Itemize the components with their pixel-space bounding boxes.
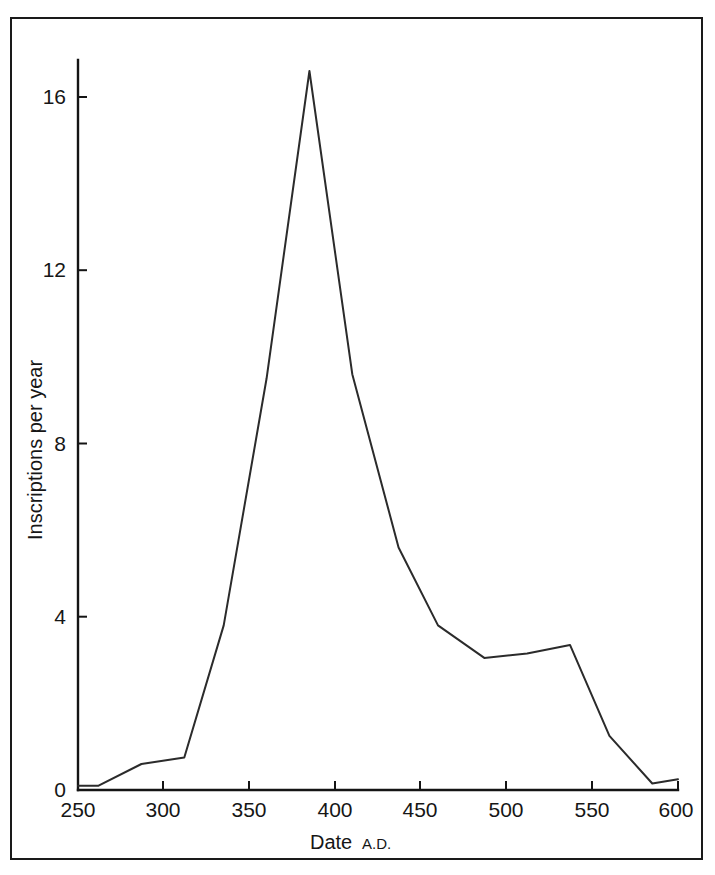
y-tick-label-12: 12 bbox=[43, 258, 66, 281]
x-tick-label-600: 600 bbox=[658, 798, 693, 821]
x-tick-marks bbox=[78, 781, 678, 790]
x-axis-title-suffix: A.D. bbox=[362, 835, 391, 852]
plot-area: 0 4 8 12 16 250 300 350 400 450 500 550 … bbox=[0, 0, 715, 875]
x-tick-label-450: 450 bbox=[402, 798, 437, 821]
chart-page: 0 4 8 12 16 250 300 350 400 450 500 550 … bbox=[0, 0, 715, 875]
y-tick-label-16: 16 bbox=[43, 85, 66, 108]
x-axis-title: Date bbox=[310, 831, 352, 853]
y-tick-label-8: 8 bbox=[54, 432, 66, 455]
x-tick-label-400: 400 bbox=[317, 798, 352, 821]
data-series-line bbox=[78, 71, 678, 786]
x-tick-label-550: 550 bbox=[574, 798, 609, 821]
x-tick-label-500: 500 bbox=[488, 798, 523, 821]
line-chart: 0 4 8 12 16 250 300 350 400 450 500 550 … bbox=[0, 0, 715, 875]
x-tick-label-350: 350 bbox=[231, 798, 266, 821]
x-tick-label-300: 300 bbox=[145, 798, 180, 821]
y-axis-title: Inscriptions per year bbox=[24, 360, 46, 540]
y-tick-marks bbox=[78, 97, 87, 790]
y-tick-label-4: 4 bbox=[54, 605, 66, 628]
x-tick-label-250: 250 bbox=[60, 798, 95, 821]
